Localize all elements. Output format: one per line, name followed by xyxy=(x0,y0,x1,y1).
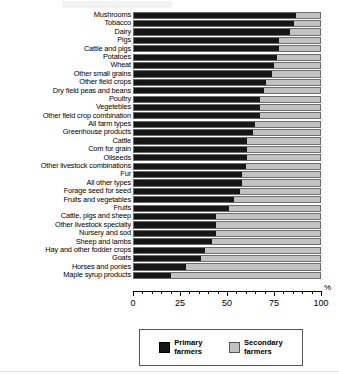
bar-track xyxy=(133,230,321,237)
bar-track xyxy=(133,37,321,44)
axis-tick-minor xyxy=(302,291,303,294)
axis-tick-major xyxy=(274,291,275,296)
bar-track xyxy=(133,87,321,94)
chart-legend: Primary farmers Secondary farmers xyxy=(139,329,303,366)
bar-track xyxy=(133,104,321,111)
bar-track xyxy=(133,129,321,136)
bar-segment-primary xyxy=(134,214,216,219)
category-label: Other livestock combinations xyxy=(0,162,133,170)
bar-segment-primary xyxy=(134,88,264,93)
bar-track xyxy=(133,238,321,245)
bar-segment-primary xyxy=(134,155,247,160)
chart-row: Cattle and pigs xyxy=(0,45,339,53)
legend-label-primary-line2: farmers xyxy=(174,347,202,356)
chart-row: Potatoes xyxy=(0,53,339,61)
chart-row: Goats xyxy=(0,254,339,262)
bar-segment-primary xyxy=(134,113,260,118)
axis-tick-minor xyxy=(312,291,313,294)
bar-track xyxy=(133,263,321,270)
chart-row: Other field crops xyxy=(0,78,339,86)
axis-tick-minor xyxy=(161,291,162,294)
chart-row: Fur xyxy=(0,170,339,178)
bar-segment-primary xyxy=(134,71,272,76)
bar-track xyxy=(133,205,321,212)
axis-tick-minor xyxy=(199,291,200,294)
axis-tick-minor xyxy=(283,291,284,294)
scan-artifact-bottom xyxy=(0,371,339,372)
x-axis xyxy=(133,291,321,297)
bar-track xyxy=(133,213,321,220)
bar-track xyxy=(133,54,321,61)
axis-tick-major xyxy=(180,291,181,296)
axis-tick-major xyxy=(321,291,322,296)
axis-tick-label: 25 xyxy=(175,298,185,309)
axis-tick-minor xyxy=(246,291,247,294)
category-label: Tobacco xyxy=(0,19,133,27)
chart-row: Other livestock specialty xyxy=(0,221,339,229)
bar-segment-primary xyxy=(134,130,253,135)
bar-segment-primary xyxy=(134,180,242,185)
bar-track xyxy=(133,221,321,228)
axis-tick-minor xyxy=(255,291,256,294)
chart-row: Fruits xyxy=(0,204,339,212)
chart-row: Dairy xyxy=(0,28,339,36)
bar-segment-primary xyxy=(134,63,274,68)
bar-track xyxy=(133,70,321,77)
bar-track xyxy=(133,112,321,119)
bar-track xyxy=(133,79,321,86)
chart-row: Wheat xyxy=(0,61,339,69)
bar-track xyxy=(133,272,321,279)
bar-segment-primary xyxy=(134,97,260,102)
legend-item-primary-farmers: Primary farmers xyxy=(159,339,202,356)
bar-segment-primary xyxy=(134,264,186,269)
chart-row: Poultry xyxy=(0,95,339,103)
category-label: Maple syrup products xyxy=(0,271,133,279)
bar-track xyxy=(133,12,321,19)
chart-row: Horses and ponies xyxy=(0,263,339,271)
chart-row: All other types xyxy=(0,179,339,187)
axis-tick-minor xyxy=(142,291,143,294)
secondary-swatch-icon xyxy=(229,342,240,353)
legend-label-secondary: Secondary farmers xyxy=(244,339,283,356)
axis-tick-minor xyxy=(208,291,209,294)
bar-segment-primary xyxy=(134,164,246,169)
chart-row: Other livestock combinations xyxy=(0,162,339,170)
chart-row: Cattle xyxy=(0,137,339,145)
bar-segment-primary xyxy=(134,189,240,194)
axis-tick-major xyxy=(133,291,134,296)
bar-track xyxy=(133,28,321,35)
bar-segment-primary xyxy=(134,46,279,51)
bar-segment-primary xyxy=(134,206,229,211)
axis-tick-minor xyxy=(265,291,266,294)
bar-track xyxy=(133,62,321,69)
bar-track xyxy=(133,247,321,254)
chart-row: Fruits and vegetables xyxy=(0,196,339,204)
axis-tick-minor xyxy=(236,291,237,294)
chart-row: Greenhouse products xyxy=(0,128,339,136)
chart-row: Other field crop combination xyxy=(0,112,339,120)
percent-unit-label: % xyxy=(324,283,331,292)
category-label: Dairy xyxy=(0,28,133,36)
bar-segment-primary xyxy=(134,273,171,278)
x-axis-tick-labels: 0255075100 xyxy=(0,298,339,310)
primary-swatch-icon xyxy=(159,342,170,353)
bar-segment-primary xyxy=(134,13,296,18)
bar-track xyxy=(133,45,321,52)
axis-tick-label: 75 xyxy=(269,298,279,309)
axis-tick-minor xyxy=(171,291,172,294)
bar-segment-primary xyxy=(134,256,201,261)
chart-row: Tobacco xyxy=(0,19,339,27)
chart-row: Forage seed for seed xyxy=(0,187,339,195)
bar-track xyxy=(133,188,321,195)
axis-tick-major xyxy=(227,291,228,296)
bar-segment-primary xyxy=(134,239,212,244)
bar-segment-primary xyxy=(134,222,216,227)
scan-artifact-top xyxy=(62,1,172,8)
bar-track xyxy=(133,163,321,170)
bar-track xyxy=(133,137,321,144)
axis-tick-label: 50 xyxy=(222,298,232,309)
chart-rows: MushroomsTobaccoDairyPigsCattle and pigs… xyxy=(0,11,339,280)
chart-row: Pigs xyxy=(0,36,339,44)
bar-track xyxy=(133,171,321,178)
bar-track xyxy=(133,146,321,153)
